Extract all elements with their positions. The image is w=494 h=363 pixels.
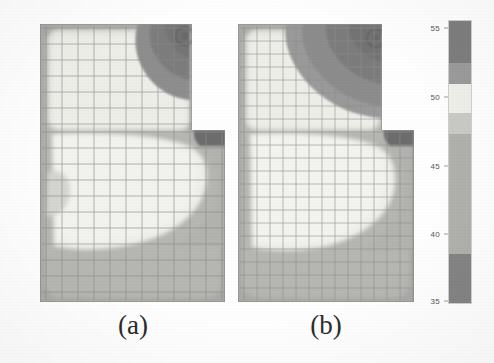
colorbar-band-50: [449, 84, 471, 112]
colorbar-tick-mark-35: [444, 301, 448, 302]
colorbar: 55 50 45 40 35: [418, 20, 480, 310]
colorbar-bar: [448, 20, 472, 304]
colorbar-band-38: [449, 254, 471, 303]
colorbar-band-55: [449, 21, 471, 63]
contour-plot-b: [236, 22, 416, 304]
colorbar-band-48: [449, 113, 471, 134]
contour-plot-a: [38, 22, 228, 304]
panel-caption-b: (b): [286, 310, 366, 341]
colorbar-tick-mark-45: [444, 166, 448, 167]
colorbar-tick-label-55: 55: [418, 24, 440, 33]
colorbar-tick-label-40: 40: [418, 230, 440, 239]
panel-caption-a: (a): [93, 310, 173, 341]
colorbar-tick-mark-55: [444, 28, 448, 29]
colorbar-band-47: [449, 134, 471, 254]
colorbar-tick-label-45: 45: [418, 162, 440, 171]
contour-panel-a: (a): [38, 22, 228, 304]
colorbar-tick-mark-50: [444, 97, 448, 98]
colorbar-tick-mark-40: [444, 234, 448, 235]
colorbar-tick-label-50: 50: [418, 93, 440, 102]
figure-root: (a): [0, 0, 494, 363]
colorbar-tick-label-35: 35: [418, 297, 440, 306]
contour-panel-b: (b): [236, 22, 416, 304]
colorbar-band-52: [449, 63, 471, 84]
